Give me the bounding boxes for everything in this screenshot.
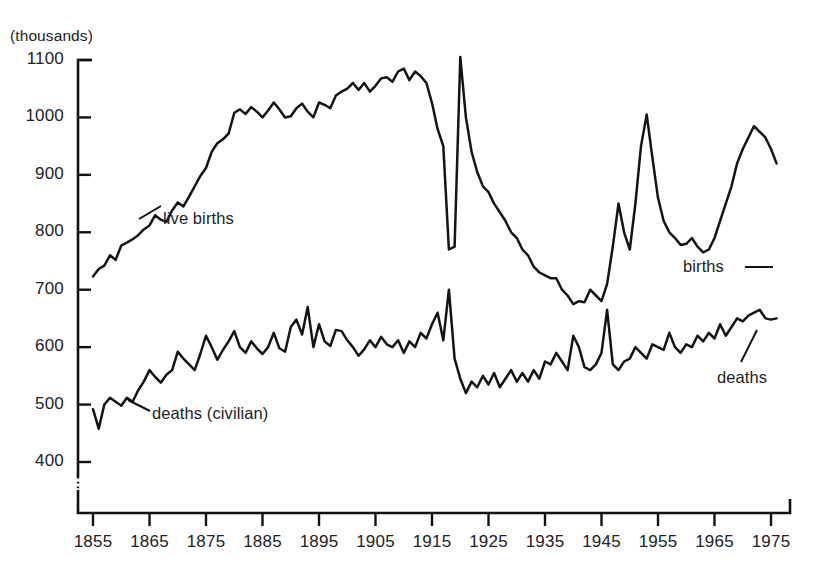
annotation-live-births: live births <box>163 209 234 228</box>
x-tick-1885: 1885 <box>231 532 295 552</box>
annotation-births-right: births <box>683 257 724 276</box>
y-tick-1100: 1100 <box>6 49 64 69</box>
y-tick-500: 500 <box>6 394 64 414</box>
x-tick-1855: 1855 <box>61 532 125 552</box>
x-tick-1905: 1905 <box>344 532 408 552</box>
chart-canvas <box>0 0 836 568</box>
births-deaths-chart: (thousands) 4005006007008009001000110018… <box>0 0 836 568</box>
x-tick-1975: 1975 <box>739 532 803 552</box>
leader-deaths-civilian <box>128 400 150 411</box>
x-tick-1895: 1895 <box>287 532 351 552</box>
x-tick-1865: 1865 <box>118 532 182 552</box>
y-tick-600: 600 <box>6 336 64 356</box>
leader-deaths-right <box>741 330 757 362</box>
x-tick-1925: 1925 <box>457 532 521 552</box>
x-tick-1875: 1875 <box>174 532 238 552</box>
x-tick-1915: 1915 <box>400 532 464 552</box>
y-tick-400: 400 <box>6 451 64 471</box>
x-tick-1945: 1945 <box>570 532 634 552</box>
x-tick-1955: 1955 <box>626 532 690 552</box>
y-tick-900: 900 <box>6 164 64 184</box>
annotation-deaths-civilian: deaths (civilian) <box>152 404 268 423</box>
series-line-births <box>93 57 777 304</box>
y-tick-800: 800 <box>6 221 64 241</box>
y-tick-700: 700 <box>6 279 64 299</box>
x-tick-1965: 1965 <box>683 532 747 552</box>
y-tick-1000: 1000 <box>6 106 64 126</box>
x-tick-1935: 1935 <box>513 532 577 552</box>
annotation-deaths-right: deaths <box>717 368 767 387</box>
